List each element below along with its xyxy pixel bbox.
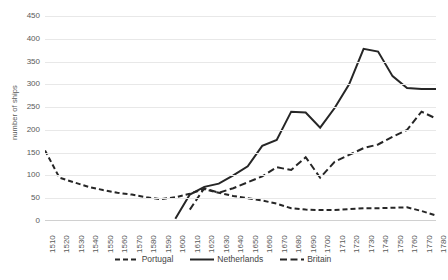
legend-item-portugal[interactable]: Portugal [115, 255, 174, 264]
x-axis-tick-label: 1570 [136, 235, 144, 253]
y-axis-tick-label: 100 [14, 171, 40, 179]
gridline [45, 175, 436, 176]
gridline [45, 107, 436, 108]
gridline [45, 39, 436, 40]
x-axis-tick-label: 1750 [397, 235, 405, 253]
gridline [45, 130, 436, 131]
x-axis-tick-label: 1730 [368, 235, 376, 253]
x-axis-tick-label: 1670 [281, 235, 289, 253]
x-axis-tick-label: 1710 [339, 235, 347, 253]
x-axis-tick-label: 1550 [107, 235, 115, 253]
x-axis-tick-label: 1650 [252, 235, 260, 253]
legend-item-netherlands[interactable]: Netherlands [190, 255, 263, 264]
y-axis-tick-label: 0 [14, 217, 40, 225]
plot-area [45, 16, 436, 221]
series-line-portugal [45, 150, 436, 215]
legend-swatch-icon [280, 255, 304, 264]
y-axis-tick-label: 350 [14, 58, 40, 66]
x-axis-tick-label: 1700 [324, 235, 332, 253]
chart-legend: PortugalNetherlandsBritain [0, 255, 446, 264]
y-axis-tick-label: 400 [14, 35, 40, 43]
x-axis-tick-label: 1610 [194, 235, 202, 253]
legend-label: Portugal [142, 255, 174, 264]
x-axis-tick-label: 1590 [165, 235, 173, 253]
gridline [45, 16, 436, 17]
legend-swatch-icon [115, 255, 139, 264]
x-axis-tick-label: 1600 [179, 235, 187, 253]
gridline [45, 62, 436, 63]
legend-item-britain[interactable]: Britain [280, 255, 331, 264]
gridline [45, 198, 436, 199]
y-axis-tick-labels: 050100150200250300350400450 [14, 0, 40, 280]
legend-swatch-icon [190, 255, 214, 264]
y-axis-tick-label: 250 [14, 103, 40, 111]
x-axis-tick-label: 1720 [353, 235, 361, 253]
x-axis-tick-label: 1740 [382, 235, 390, 253]
x-axis-tick-label: 1780 [440, 235, 448, 253]
x-axis-tick-label: 1660 [266, 235, 274, 253]
y-axis-tick-label: 150 [14, 149, 40, 157]
gridline [45, 153, 436, 154]
legend-label: Netherlands [217, 255, 263, 264]
x-axis-tick-label: 1510 [49, 235, 57, 253]
x-axis-tick-label: 1530 [78, 235, 86, 253]
x-axis-tick-label: 1560 [121, 235, 129, 253]
x-axis-tick-label: 1770 [426, 235, 434, 253]
x-axis-tick-label: 1540 [92, 235, 100, 253]
y-axis-tick-label: 300 [14, 80, 40, 88]
y-axis-tick-label: 200 [14, 126, 40, 134]
gridline [45, 84, 436, 85]
x-axis-tick-label: 1680 [295, 235, 303, 253]
x-axis-tick-label: 1760 [411, 235, 419, 253]
x-axis-tick-label: 1630 [223, 235, 231, 253]
x-axis-tick-label: 1640 [237, 235, 245, 253]
x-axis-tick-label: 1620 [208, 235, 216, 253]
x-axis-tick-label: 1690 [310, 235, 318, 253]
x-axis-tick-label: 1580 [150, 235, 158, 253]
x-axis-tick-labels: 1510152015301540155015601570158015901600… [45, 223, 436, 257]
y-axis-tick-label: 450 [14, 12, 40, 20]
series-lines [45, 16, 436, 221]
x-axis-tick-label: 1520 [63, 235, 71, 253]
legend-label: Britain [307, 255, 331, 264]
y-axis-tick-label: 50 [14, 194, 40, 202]
